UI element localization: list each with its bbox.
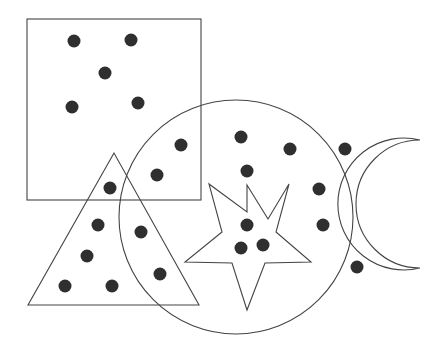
dot-crescent-circle — [313, 183, 326, 196]
dot-crescent — [351, 261, 364, 274]
dot-triangle — [106, 280, 119, 293]
dot-triangle — [81, 250, 94, 263]
dot-triangle — [92, 219, 105, 232]
dot-circle — [241, 165, 254, 178]
dot-triangle-circle — [154, 268, 167, 281]
dot-square-circle — [151, 169, 164, 182]
square-shape — [27, 19, 201, 200]
dot-square — [68, 35, 81, 48]
crescent-shape — [338, 138, 420, 270]
dot-crescent — [339, 143, 352, 156]
dot-square-triangle — [104, 182, 117, 195]
dot-crescent-circle — [317, 219, 330, 232]
shapes-diagram — [0, 0, 447, 353]
diagram-svg — [0, 0, 447, 353]
dot-star-circle — [241, 219, 254, 232]
dot-circle — [284, 143, 297, 156]
dot-star-circle — [257, 239, 270, 252]
dot-circle — [235, 131, 248, 144]
dot-square — [99, 67, 112, 80]
dots-group — [59, 34, 364, 293]
dot-square — [132, 97, 145, 110]
dot-triangle — [59, 280, 72, 293]
dot-triangle-circle — [135, 226, 148, 239]
star-shape — [185, 184, 311, 310]
dot-square — [66, 101, 79, 114]
dot-star-circle — [235, 242, 248, 255]
dot-square-circle — [175, 139, 188, 152]
dot-square — [125, 34, 138, 47]
